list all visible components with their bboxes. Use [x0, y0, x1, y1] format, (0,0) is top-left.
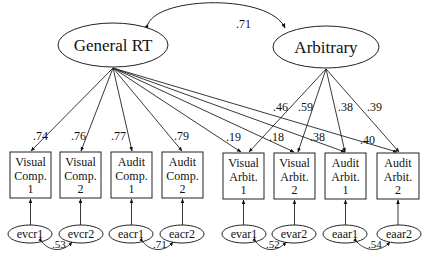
error-corr-ac: .71: [153, 238, 167, 250]
latent-general-rt-label: General RT: [74, 36, 153, 55]
loading-vc1-general: .74: [33, 129, 48, 143]
svg-text:2: 2: [180, 182, 186, 196]
svg-text:Visual: Visual: [65, 155, 96, 169]
observed-visual-arbit-2: Visual Arbit. 2: [274, 153, 315, 199]
svg-text:Arbit.: Arbit.: [384, 170, 412, 184]
observed-audit-arbit-2: Audit Arbit. 2: [377, 153, 419, 199]
svg-text:Arbit.: Arbit.: [280, 170, 308, 184]
observed-audit-comp-2: Audit Comp. 2: [162, 152, 203, 198]
factor-correlation-value: .71: [236, 17, 251, 31]
loading-va2-arbitrary: .59: [298, 100, 313, 114]
svg-text:evar1: evar1: [231, 227, 258, 241]
svg-text:eaar1: eaar1: [332, 227, 358, 241]
loading-ac2-general: .79: [174, 129, 189, 143]
svg-text:2: 2: [292, 183, 298, 197]
svg-text:evar2: evar2: [281, 227, 308, 241]
svg-text:Comp.: Comp.: [115, 169, 147, 183]
svg-text:eacr1: eacr1: [118, 227, 144, 241]
observed-visual-comp-1: Visual Comp. 1: [10, 152, 51, 198]
error-paths: [31, 199, 399, 225]
observed-visual-comp-2: Visual Comp. 2: [60, 152, 101, 198]
error-evcr1: evcr1: [8, 225, 52, 243]
loading-va1-arbitrary: .46: [273, 100, 288, 114]
loading-aa2-general: .40: [360, 133, 375, 147]
sem-diagram: .71 General RT Arbitrary .74 .76 .77 .79…: [0, 0, 431, 256]
svg-text:1: 1: [129, 182, 135, 196]
latent-general-rt: General RT: [58, 23, 168, 67]
error-correlation-arcs: [42, 242, 390, 250]
svg-text:evcr2: evcr2: [68, 227, 95, 241]
observed-visual-arbit-1: Visual Arbit. 1: [223, 153, 264, 199]
svg-text:Audit: Audit: [118, 155, 146, 169]
latent-arbitrary: Arbitrary: [273, 26, 379, 68]
svg-text:Arbit.: Arbit.: [229, 170, 257, 184]
factor-correlation-arc: [148, 3, 285, 28]
loading-vc2-general: .76: [71, 129, 86, 143]
svg-text:Audit: Audit: [384, 156, 412, 170]
error-corr-va: .52: [266, 238, 280, 250]
error-eacr1: eacr1: [109, 225, 153, 243]
error-corr-aa: .54: [368, 238, 382, 250]
svg-text:1: 1: [343, 183, 349, 197]
loading-aa1-general: .38: [310, 130, 325, 144]
observed-audit-arbit-1: Audit Arbit. 1: [325, 153, 366, 199]
svg-text:2: 2: [78, 182, 84, 196]
svg-text:Audit: Audit: [332, 156, 360, 170]
svg-text:Visual: Visual: [279, 156, 310, 170]
svg-text:Comp.: Comp.: [14, 169, 46, 183]
error-evar1: evar1: [222, 225, 266, 243]
loading-va1-general: .19: [226, 130, 241, 144]
svg-text:eacr2: eacr2: [169, 227, 195, 241]
svg-text:1: 1: [241, 183, 247, 197]
svg-text:Comp.: Comp.: [64, 169, 96, 183]
svg-text:Visual: Visual: [15, 155, 46, 169]
loading-aa2-arbitrary: .39: [367, 100, 382, 114]
error-corr-vc: .53: [52, 238, 66, 250]
error-eaar1: eaar1: [323, 225, 367, 243]
observed-audit-comp-1: Audit Comp. 1: [111, 152, 152, 198]
svg-text:eaar2: eaar2: [386, 227, 412, 241]
svg-text:Arbit.: Arbit.: [331, 170, 359, 184]
svg-text:Visual: Visual: [228, 156, 259, 170]
loading-va2-general: .18: [269, 130, 284, 144]
svg-text:evcr1: evcr1: [17, 227, 44, 241]
svg-text:Audit: Audit: [169, 155, 197, 169]
loading-aa1-arbitrary: .38: [338, 100, 353, 114]
loading-ac1-general: .77: [111, 129, 126, 143]
error-eaar2: eaar2: [377, 225, 421, 243]
svg-text:Comp.: Comp.: [166, 169, 198, 183]
svg-text:1: 1: [28, 182, 34, 196]
latent-arbitrary-label: Arbitrary: [294, 38, 358, 57]
svg-text:2: 2: [395, 183, 401, 197]
